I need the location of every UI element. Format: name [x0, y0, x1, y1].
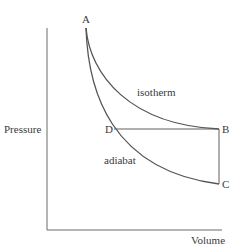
adiabat-label: adiabat	[104, 154, 136, 166]
pv-diagram: A B C D isotherm adiabat Pressure Volume	[0, 0, 242, 252]
y-axis-label: Pressure	[4, 123, 41, 135]
point-label-b: B	[222, 123, 229, 135]
point-label-c: C	[222, 178, 229, 190]
point-label-d: D	[105, 123, 113, 135]
x-axis-label: Volume	[191, 234, 225, 246]
isotherm-label: isotherm	[137, 86, 176, 98]
point-label-a: A	[82, 13, 90, 25]
